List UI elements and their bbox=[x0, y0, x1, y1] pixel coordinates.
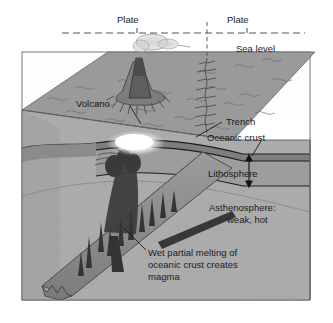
label-lithosphere: Lithosphere bbox=[208, 168, 258, 179]
label-melting-line2: oceanic crust creates bbox=[148, 259, 238, 270]
diagram-canvas: Plate Plate Sea level Volcano Trench Oce… bbox=[0, 0, 333, 323]
block-left-face-shade bbox=[22, 110, 60, 300]
label-melting-line1: Wet partial melting of bbox=[148, 247, 237, 258]
label-volcano: Volcano bbox=[76, 98, 110, 109]
label-asthenosphere-line2: weak, hot bbox=[226, 214, 268, 225]
label-sea-level: Sea level bbox=[236, 43, 275, 54]
label-oceanic-crust: Oceanic crust bbox=[207, 132, 265, 143]
label-plate-right: Plate bbox=[227, 14, 249, 25]
subduction-zone-figure: Plate Plate Sea level Volcano Trench Oce… bbox=[0, 0, 333, 323]
label-asthenosphere-line1: Asthenosphere: bbox=[209, 202, 276, 213]
label-melting-line3: magma bbox=[148, 271, 180, 282]
magma-chamber-core bbox=[115, 134, 153, 150]
label-trench: Trench bbox=[226, 116, 255, 127]
label-plate-left: Plate bbox=[117, 14, 139, 25]
plate-span-ticks bbox=[137, 28, 247, 33]
